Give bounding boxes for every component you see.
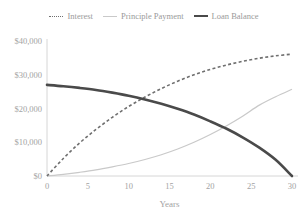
y-axis-tick-label: $10,000 <box>14 137 42 147</box>
legend-label-loan-balance: Loan Balance <box>212 12 259 21</box>
plot-svg: $0$10,000$20,000$30,000$40,000 051015202… <box>0 24 308 220</box>
legend-swatch-principle-payment-line-icon <box>103 16 117 17</box>
x-axis-tick-label: 0 <box>45 181 49 191</box>
x-axis-tick-label: 20 <box>206 181 215 191</box>
y-axis-tick-label: $40,000 <box>14 36 42 46</box>
series-line-loan-balance <box>47 85 292 176</box>
x-axis-tick-label: 25 <box>247 181 256 191</box>
legend-label-principle-payment: Principle Payment <box>121 12 184 21</box>
legend-item-principle-payment[interactable]: Principle Payment <box>103 12 184 21</box>
legend-label-interest: Interest <box>67 12 93 21</box>
y-axis-tick-label: $30,000 <box>14 70 42 80</box>
x-axis-tick-label: 10 <box>124 181 133 191</box>
chart-legend: Interest Principle Payment Loan Balance <box>0 8 308 24</box>
series-line-interest <box>47 54 292 176</box>
series-line-principle-payment <box>47 89 292 176</box>
loan-amortization-chart: Interest Principle Payment Loan Balance … <box>0 0 308 220</box>
y-axis-tick-labels: $0$10,000$20,000$30,000$40,000 <box>14 36 42 181</box>
y-axis-tick-label: $20,000 <box>14 104 42 114</box>
x-axis-tick-labels: 051015202530 <box>45 181 296 191</box>
legend-swatch-loan-balance-line-icon <box>194 15 208 17</box>
legend-item-interest[interactable]: Interest <box>49 12 93 21</box>
x-axis-tick-label: 5 <box>86 181 90 191</box>
legend-item-loan-balance[interactable]: Loan Balance <box>194 12 259 21</box>
x-axis-title: Years <box>159 199 180 209</box>
x-axis-tick-label: 15 <box>165 181 174 191</box>
plot-area: $0$10,000$20,000$30,000$40,000 051015202… <box>0 24 308 220</box>
x-axis-tick-label: 30 <box>288 181 297 191</box>
y-axis-tick-label: $0 <box>34 171 43 181</box>
legend-swatch-interest-dotted-line-icon <box>49 16 63 17</box>
